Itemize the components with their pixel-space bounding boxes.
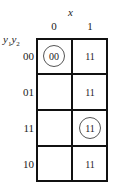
- column-header-0: 0: [36, 20, 72, 32]
- cell-10-0: [36, 146, 72, 182]
- cell-00-1: 11: [72, 38, 108, 74]
- cell-10-1: 11: [72, 146, 108, 182]
- circle-marker: 11: [79, 117, 101, 139]
- column-variable-label: x: [68, 6, 73, 18]
- column-header-1: 1: [72, 20, 108, 32]
- cell-01-1: 11: [72, 74, 108, 110]
- row-header-11: 11: [10, 122, 34, 134]
- cell-value: 11: [85, 87, 95, 98]
- row-header-00: 00: [10, 50, 34, 62]
- cell-00-0: 00: [36, 38, 72, 74]
- cell-value: 11: [85, 51, 95, 62]
- cell-value: 11: [85, 123, 95, 134]
- cell-value: 00: [49, 51, 59, 62]
- cell-01-0: [36, 74, 72, 110]
- cell-11-1: 11: [72, 110, 108, 146]
- row-var-y2-sub: 2: [16, 40, 20, 48]
- cell-value: 11: [85, 159, 95, 170]
- cell-11-0: [36, 110, 72, 146]
- row-header-10: 10: [10, 158, 34, 170]
- row-variables-label: y1y2: [3, 33, 20, 48]
- row-header-01: 01: [10, 86, 34, 98]
- circle-marker: 00: [43, 45, 65, 67]
